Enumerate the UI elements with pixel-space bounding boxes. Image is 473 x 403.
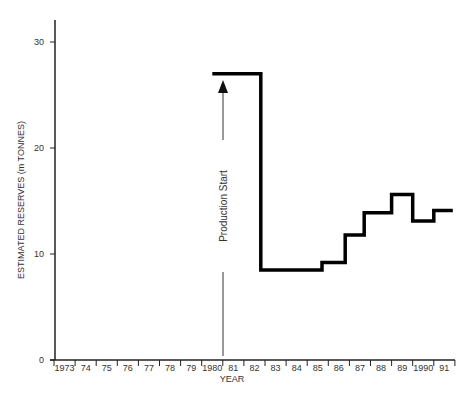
x-axis-label: YEAR: [220, 374, 245, 384]
x-tick-label: 84: [292, 363, 302, 373]
y-tick-label: 20: [34, 143, 44, 153]
x-tick-label: 1973: [55, 363, 75, 373]
x-tick-label: 74: [81, 363, 91, 373]
x-tick-label: 81: [228, 363, 238, 373]
x-tick-label: 85: [313, 363, 323, 373]
x-tick-label: 76: [123, 363, 133, 373]
step-chart: 0102030 19737475767778791980818283848586…: [0, 0, 473, 403]
y-axis-label: ESTIMATED RESERVES (m TONNES): [16, 121, 26, 279]
y-ticks: 0102030: [34, 37, 55, 365]
x-tick-label: 87: [355, 363, 365, 373]
x-tick-label: 86: [334, 363, 344, 373]
x-tick-label: 83: [271, 363, 281, 373]
reserves-step-line: [212, 74, 452, 270]
x-ticks: 1973747576777879198081828384858687888919…: [54, 360, 455, 373]
x-tick-label: 89: [397, 363, 407, 373]
x-tick-label: 88: [376, 363, 386, 373]
x-tick-label: 82: [249, 363, 259, 373]
x-tick-label: 75: [102, 363, 112, 373]
arrow-head-icon: [218, 80, 228, 93]
annotation-label: Production Start: [218, 170, 229, 242]
x-tick-label: 78: [165, 363, 175, 373]
x-tick-label: 1990: [413, 363, 433, 373]
x-tick-label: 91: [439, 363, 449, 373]
production-start-annotation: Production Start: [218, 80, 229, 356]
x-tick-label: 79: [186, 363, 196, 373]
x-tick-label: 77: [144, 363, 154, 373]
y-tick-label: 10: [34, 249, 44, 259]
x-tick-label: 1980: [202, 363, 222, 373]
y-tick-label: 0: [39, 355, 44, 365]
y-tick-label: 30: [34, 37, 44, 47]
